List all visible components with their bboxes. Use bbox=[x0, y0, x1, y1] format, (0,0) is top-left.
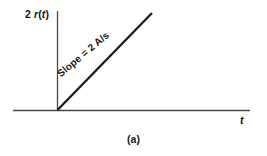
ramp-function-figure: 2 r(t) t Slope = 2 A/s (a) bbox=[0, 0, 267, 156]
y-axis-label-coefficient: 2 bbox=[25, 8, 34, 20]
y-axis-label-close-paren: ) bbox=[45, 8, 49, 20]
x-axis-label: t bbox=[240, 114, 244, 126]
y-axis-label: 2 r(t) bbox=[25, 8, 49, 20]
figure-caption: (a) bbox=[0, 133, 267, 145]
